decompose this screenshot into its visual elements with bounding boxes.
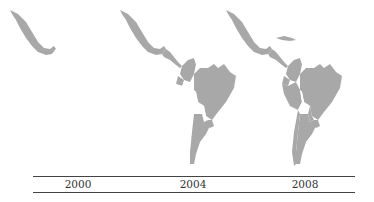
country-colombia bbox=[286, 58, 302, 82]
panel-label-2004: 2004 bbox=[163, 178, 223, 190]
latin-america-map bbox=[8, 2, 128, 172]
table-top-rule bbox=[33, 176, 355, 177]
country-mexico bbox=[226, 10, 272, 55]
map-panel-2000 bbox=[8, 2, 128, 172]
country-peru bbox=[176, 82, 196, 110]
table-bottom-rule bbox=[33, 192, 355, 193]
map-panel-2004 bbox=[118, 2, 238, 172]
country-uruguay bbox=[98, 120, 104, 128]
country-mexico bbox=[10, 10, 56, 55]
panel-label-2008: 2008 bbox=[275, 178, 335, 190]
country-cuba bbox=[276, 36, 296, 41]
country-peru bbox=[66, 82, 86, 110]
country-central-america bbox=[268, 49, 288, 68]
panel-label-2000: 2000 bbox=[48, 178, 108, 190]
map-panel-2008 bbox=[224, 2, 344, 172]
country-uruguay bbox=[208, 120, 214, 128]
country-central-america bbox=[52, 49, 72, 68]
country-cuba bbox=[60, 36, 80, 41]
country-colombia bbox=[180, 58, 196, 82]
country-mexico bbox=[120, 10, 166, 55]
latin-america-map bbox=[118, 2, 238, 172]
country-uruguay bbox=[314, 120, 320, 128]
latin-america-map bbox=[224, 2, 344, 172]
country-colombia bbox=[70, 58, 86, 82]
country-central-america bbox=[162, 49, 182, 68]
country-cuba bbox=[170, 36, 190, 41]
country-peru bbox=[282, 82, 302, 110]
